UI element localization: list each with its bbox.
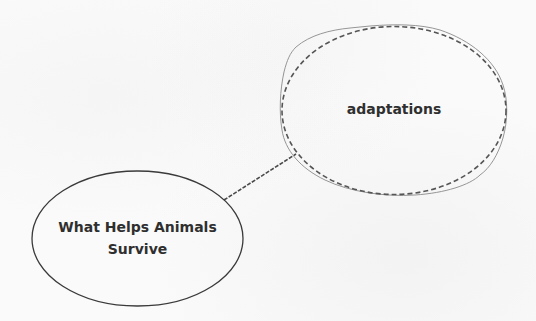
diagram-svg (0, 0, 536, 321)
node-root-label[interactable]: What Helps Animals Survive (32, 216, 243, 260)
node-root-label-line1: What Helps Animals (32, 216, 243, 238)
diagram-canvas[interactable]: What Helps Animals Survive adaptations (0, 0, 536, 321)
node-root-label-line2: Survive (32, 238, 243, 260)
node-adaptations-label[interactable]: adaptations (281, 98, 507, 120)
node-adaptations-label-text: adaptations (281, 98, 507, 120)
edge-root-to-adaptations[interactable] (224, 154, 296, 200)
